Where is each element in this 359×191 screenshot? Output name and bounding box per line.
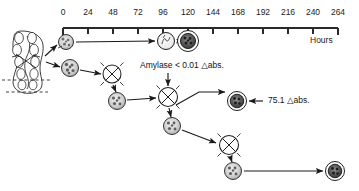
cell-at-96h xyxy=(158,33,175,50)
annotation-amylase-high: 75.1 △abs. xyxy=(268,95,310,105)
dividing-cell-1 xyxy=(101,63,124,86)
dividing-cell-2 xyxy=(157,86,180,109)
figure-canvas: 0 24 48 72 96 120 144 168 192 216 240 26… xyxy=(0,0,359,191)
daughter-cell-3 xyxy=(225,163,242,180)
isolated-cell-upper xyxy=(58,35,74,50)
dark-cell-final xyxy=(326,162,345,181)
cell-at-120h xyxy=(178,31,199,52)
annotation-amylase-low: Amylase < 0.01 △abs. xyxy=(140,60,224,70)
daughter-cell-1 xyxy=(109,93,126,110)
daughter-cell-2 xyxy=(164,118,181,135)
dividing-cell-3 xyxy=(218,134,241,157)
dark-cell-right xyxy=(228,92,247,111)
isolated-cell-lower xyxy=(62,60,79,77)
